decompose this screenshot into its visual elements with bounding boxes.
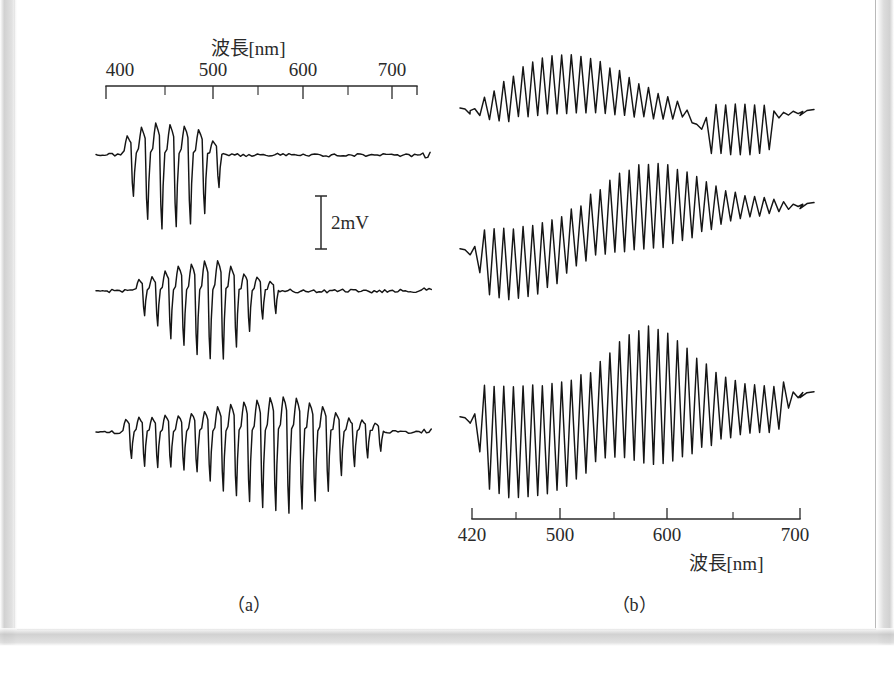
panel-a-caption: （a）	[227, 595, 271, 615]
panel-a-tick-label-400: 400	[106, 59, 135, 80]
panel-b-axis	[472, 508, 800, 519]
panel-b-tick-label-420: 420	[458, 524, 487, 545]
scalebar: 2mV	[315, 196, 369, 249]
panel-a-axis	[106, 86, 417, 99]
panel-b-tick-labels: 420 500 600 700	[458, 524, 810, 545]
trace-a1	[96, 123, 430, 229]
panel-b-axis-title: 波長[nm]	[689, 553, 764, 574]
panel-a-tick-label-500: 500	[199, 59, 228, 80]
panel-b: 420 500 600 700 波長[nm] （b）	[458, 55, 814, 615]
panel-b-tick-label-600: 600	[653, 524, 682, 545]
trace-a2	[96, 261, 431, 359]
scalebar-label: 2mV	[331, 212, 369, 233]
panel-b-tick-label-500: 500	[546, 524, 575, 545]
trace-a3	[96, 397, 431, 513]
panel-a-tick-labels: 400 500 600 700	[106, 59, 407, 80]
figure-canvas: 波長[nm] 400 500 600 700	[0, 0, 894, 688]
panel-b-tick-label-700: 700	[781, 524, 810, 545]
panel-a: 波長[nm] 400 500 600 700	[96, 38, 431, 615]
panel-a-tick-label-600: 600	[289, 59, 318, 80]
panel-a-axis-title: 波長[nm]	[211, 38, 286, 59]
panel-a-tick-label-700: 700	[378, 59, 407, 80]
trace-b2	[460, 164, 814, 300]
trace-b3	[460, 326, 814, 498]
trace-b1	[460, 55, 814, 155]
panel-b-caption: （b）	[612, 595, 657, 615]
